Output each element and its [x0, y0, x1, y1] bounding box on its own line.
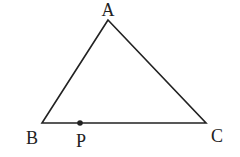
vertex-label-a: A [102, 0, 115, 20]
triangle-diagram: A B C P [0, 0, 240, 157]
point-p-marker [77, 120, 83, 126]
point-label-p: P [76, 131, 86, 151]
vertex-label-b: B [26, 128, 38, 148]
triangle-abc [42, 20, 206, 123]
vertex-label-c: C [211, 126, 223, 146]
